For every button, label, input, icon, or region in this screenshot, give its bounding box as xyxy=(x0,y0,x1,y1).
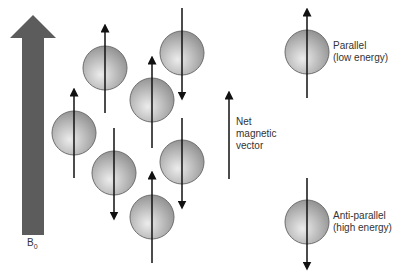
b0-field-arrow-icon xyxy=(10,15,56,235)
spin-up-4 xyxy=(130,175,174,263)
antiparallel-label: Anti-parallel (high energy) xyxy=(333,210,392,234)
spin-down-2 xyxy=(160,8,204,96)
parallel-spin-icon xyxy=(285,12,329,98)
spin-up-2 xyxy=(83,28,127,113)
spin-down-1 xyxy=(92,128,136,216)
parallel-label: Parallel (low energy) xyxy=(333,40,388,64)
b0-label: B0 xyxy=(27,237,38,250)
spin-down-3 xyxy=(160,118,204,205)
antiparallel-spin-icon xyxy=(285,178,329,266)
spin-up-3 xyxy=(130,60,174,148)
spin-up-1 xyxy=(52,92,96,178)
net-vector-label: Net magnetic vector xyxy=(236,116,277,152)
